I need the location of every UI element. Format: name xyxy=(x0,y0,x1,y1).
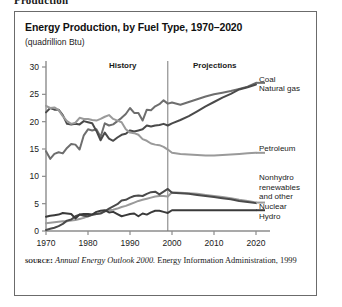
x-tick-label: 2020 xyxy=(247,238,266,248)
series-label-hydro: Hydro xyxy=(259,212,280,222)
figure-frame: Energy Production, by Fuel Type, 1970–20… xyxy=(14,11,317,296)
x-tick-label: 2010 xyxy=(205,238,224,248)
y-tick-label: 0 xyxy=(34,226,39,236)
annotation-history: History xyxy=(109,61,137,70)
source-note: source: Annual Energy Outlook 2000. Ener… xyxy=(25,255,307,267)
source-agency: Energy Information Administration, 1999 xyxy=(157,256,296,265)
x-tick-label: 2000 xyxy=(163,238,182,248)
y-tick-label: 25 xyxy=(30,89,40,99)
x-tick-label: 1970 xyxy=(37,238,56,248)
y-tick-label: 10 xyxy=(30,171,40,181)
series-label-nonhydro-line2: renewables xyxy=(259,183,300,192)
series-line-hydro xyxy=(46,210,256,218)
source-keyword: source: xyxy=(25,255,53,265)
y-tick-label: 20 xyxy=(30,117,40,127)
annotation-projections: Projections xyxy=(193,61,237,70)
y-tick-label: 30 xyxy=(30,62,40,72)
cut-off-caption: Production xyxy=(14,0,214,8)
y-tick-label: 15 xyxy=(30,144,40,154)
series-label-petroleum: Petroleum xyxy=(259,144,295,154)
source-publication: Annual Energy Outlook 2000. xyxy=(55,256,155,265)
series-label-natural-gas: Natural gas xyxy=(259,84,300,94)
series-line-nonhydro-renewables-and-other xyxy=(46,192,256,223)
x-tick-label: 1990 xyxy=(121,238,140,248)
series-label-nonhydro-line3: and other xyxy=(259,192,293,201)
series-label-nonhydro-line1: Nonhydro xyxy=(259,173,294,182)
series-label-nonhydro-renewables: Nonhydro renewables and other xyxy=(259,173,300,202)
series-label-nuclear: Nuclear xyxy=(259,202,287,212)
x-tick-label: 1980 xyxy=(79,238,98,248)
y-tick-label: 5 xyxy=(34,199,39,209)
